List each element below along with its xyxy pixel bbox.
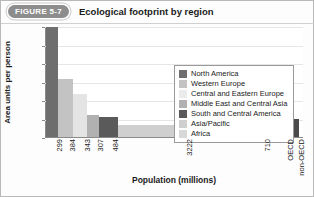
legend-label: Asia/Pacific <box>191 119 230 129</box>
legend-label: South and Central America <box>191 109 281 119</box>
y-axis-title: Area units per person <box>2 27 14 138</box>
figure-number-badge: FIGURE 5-7 <box>8 5 69 18</box>
legend-item: Western Europe <box>179 79 287 89</box>
figure-title: Ecological footprint by region <box>79 5 214 18</box>
legend-swatch <box>179 100 187 108</box>
bar-north-america <box>46 27 58 137</box>
x-axis-title: Population (millions) <box>45 175 303 185</box>
x-tick-label: 384 <box>68 126 77 139</box>
legend-item: North America <box>179 69 287 79</box>
legend-item: Middle East and Central Asia <box>179 99 287 109</box>
y-tick-mark <box>42 83 45 84</box>
y-tick-mark <box>42 120 45 121</box>
legend-label: Middle East and Central Asia <box>191 99 287 109</box>
legend-swatch <box>179 70 187 78</box>
y-tick-mark <box>42 138 45 139</box>
x-axis-ticks: 2993843433074843222710OECDnon-OECD <box>46 139 304 173</box>
legend-swatch <box>179 80 187 88</box>
x-tick-label: 3222 <box>185 122 194 139</box>
x-tick-label: 343 <box>83 126 92 139</box>
y-tick-mark <box>42 64 45 65</box>
y-tick-mark <box>42 101 45 102</box>
legend-swatch <box>179 110 187 118</box>
y-tick-mark <box>42 46 45 47</box>
legend-label: Central and Eastern Europe <box>191 89 284 99</box>
x-tick-label: non-OECD <box>297 102 306 139</box>
x-tick-label: 299 <box>55 126 64 139</box>
plot-area: 024681012 North AmericaWestern EuropeCen… <box>45 27 303 138</box>
x-tick-label: 710 <box>263 126 272 139</box>
legend-label: Western Europe <box>191 79 245 89</box>
figure-header: FIGURE 5-7 Ecological footprint by regio… <box>1 1 314 23</box>
legend-item: South and Central America <box>179 109 287 119</box>
legend-label: North America <box>191 69 239 79</box>
x-tick-label: OECD <box>286 117 295 139</box>
y-tick-mark <box>42 27 45 28</box>
header-divider <box>1 23 314 24</box>
x-tick-label: 307 <box>96 126 105 139</box>
legend-swatch <box>179 90 187 98</box>
x-tick-label: 484 <box>111 126 120 139</box>
legend-item: Central and Eastern Europe <box>179 89 287 99</box>
figure-container: FIGURE 5-7 Ecological footprint by regio… <box>0 0 314 197</box>
